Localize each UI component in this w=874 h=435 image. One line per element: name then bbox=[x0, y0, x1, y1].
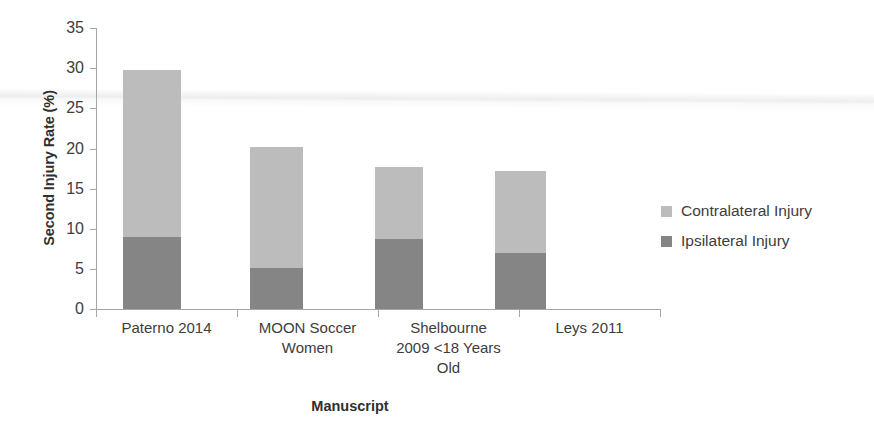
x-axis-title: Manuscript bbox=[0, 398, 700, 414]
x-tick-mark-4 bbox=[660, 310, 661, 317]
legend-swatch-icon-contralateral bbox=[661, 206, 672, 217]
x-category-label-line-3: Old bbox=[378, 358, 519, 378]
x-tick-mark-2 bbox=[378, 310, 379, 317]
y-tick-label-15: 15 bbox=[42, 180, 84, 198]
bar-segment-ipsilateral[interactable] bbox=[495, 253, 546, 309]
bar-segment-ipsilateral[interactable] bbox=[123, 237, 181, 309]
y-axis-line bbox=[96, 28, 97, 310]
legend-label-contralateral: Contralateral Injury bbox=[681, 202, 812, 220]
x-category-label-line-2: Women bbox=[237, 338, 378, 358]
bar-segment-ipsilateral[interactable] bbox=[375, 239, 423, 309]
bar-group-leys-2011[interactable] bbox=[495, 171, 546, 309]
legend-item-contralateral-injury[interactable]: Contralateral Injury bbox=[661, 196, 866, 226]
y-axis-tick-labels: 35 30 25 20 15 10 5 0 bbox=[42, 0, 84, 435]
y-tick-label-35: 35 bbox=[42, 19, 84, 37]
y-tick-label-25: 25 bbox=[42, 99, 84, 117]
chart-legend: Contralateral Injury Ipsilateral Injury bbox=[661, 196, 866, 256]
x-category-label-paterno-2014: Paterno 2014 bbox=[96, 318, 237, 338]
bar-segment-contralateral[interactable] bbox=[123, 70, 181, 237]
legend-label-ipsilateral: Ipsilateral Injury bbox=[681, 232, 790, 250]
bar-segment-ipsilateral[interactable] bbox=[250, 268, 303, 309]
stacked-bar-chart: Second Injury Rate (%) 35 30 25 20 15 10… bbox=[0, 0, 874, 435]
y-tick-label-30: 30 bbox=[42, 59, 84, 77]
bar-group-moon-soccer-women[interactable] bbox=[250, 147, 303, 309]
x-tick-mark-3 bbox=[519, 310, 520, 317]
bar-segment-contralateral[interactable] bbox=[250, 147, 303, 268]
x-category-label-moon-soccer-women: MOON Soccer Women bbox=[237, 318, 378, 358]
bar-group-shelbourne-2009[interactable] bbox=[375, 167, 423, 309]
y-tick-label-5: 5 bbox=[42, 260, 84, 278]
legend-swatch-icon-ipsilateral bbox=[661, 236, 672, 247]
bar-segment-contralateral[interactable] bbox=[495, 171, 546, 253]
x-tick-mark-0 bbox=[96, 310, 97, 317]
x-category-label-line-2: 2009 <18 Years bbox=[378, 338, 519, 358]
x-category-label-leys-2011: Leys 2011 bbox=[519, 318, 660, 338]
y-tick-label-0: 0 bbox=[42, 300, 84, 318]
legend-item-ipsilateral-injury[interactable]: Ipsilateral Injury bbox=[661, 226, 866, 256]
x-category-label-line-1: Leys 2011 bbox=[519, 318, 660, 338]
y-tick-label-20: 20 bbox=[42, 140, 84, 158]
bar-segment-contralateral[interactable] bbox=[375, 167, 423, 239]
bar-group-paterno-2014[interactable] bbox=[123, 70, 181, 309]
x-category-label-line-1: Shelbourne bbox=[378, 318, 519, 338]
y-tick-label-10: 10 bbox=[42, 220, 84, 238]
x-category-label-line-1: MOON Soccer bbox=[237, 318, 378, 338]
x-category-label-line-1: Paterno 2014 bbox=[96, 318, 237, 338]
x-tick-mark-1 bbox=[237, 310, 238, 317]
x-category-label-shelbourne-2009: Shelbourne 2009 <18 Years Old bbox=[378, 318, 519, 378]
